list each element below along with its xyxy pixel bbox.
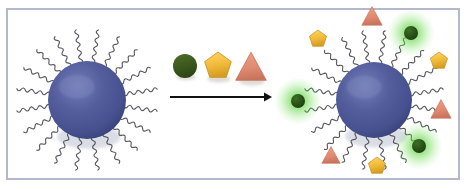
- polymer-chain: [17, 104, 51, 112]
- ligand-circle-lower-right-icon: [412, 139, 426, 153]
- polymer-chain: [120, 67, 150, 84]
- ligand-triangle-top-icon: [362, 7, 382, 26]
- ligand-pentagon-upper-left-icon: [309, 30, 326, 46]
- reaction-arrow-head: [264, 92, 272, 101]
- ligand-circle-upper-right-icon: [404, 26, 418, 40]
- ligand-pentagon-bottom-icon: [368, 157, 385, 173]
- ligand-pentagon-right-icon: [430, 52, 447, 68]
- polymer-chain: [124, 88, 158, 96]
- polymer-chain: [17, 88, 51, 95]
- nanoparticle-core: [48, 61, 126, 139]
- salmon-triangle-ligand: [236, 52, 267, 80]
- polymer-chain: [406, 68, 436, 85]
- polymer-chain: [104, 37, 120, 67]
- polymer-chain: [410, 88, 444, 96]
- polymer-chain: [342, 38, 359, 68]
- yellow-pentagon-ligand: [205, 52, 232, 77]
- polymer-chain: [379, 31, 386, 65]
- polymer-chain: [312, 68, 342, 84]
- polymer-chain: [24, 116, 54, 133]
- ligand-circle-left-icon: [291, 94, 305, 108]
- polymer-chain: [120, 117, 150, 133]
- figure-canvas: [0, 0, 468, 190]
- polymer-chain: [24, 68, 54, 84]
- polymer-chain: [92, 30, 99, 64]
- reaction-arrow-group: [170, 92, 272, 101]
- polymer-chain: [324, 50, 348, 74]
- reactant-nanoparticle-group: [17, 30, 157, 170]
- polymer-chain: [324, 125, 348, 149]
- ligand-legend-group: [173, 52, 266, 86]
- nanoparticle-core: [336, 62, 412, 138]
- polymer-chain: [362, 31, 370, 65]
- polymer-chain: [75, 30, 83, 64]
- polymer-chain: [37, 126, 61, 150]
- polymer-chain: [312, 116, 342, 133]
- nanoparticle-functionalization-figure: Polymer-coated nanoparticle functionaliz…: [0, 0, 468, 190]
- polymer-chain: [124, 105, 158, 112]
- polymer-chain: [54, 37, 71, 67]
- product-nanoparticle-group: [274, 7, 451, 174]
- nanoparticle-specular-highlight: [347, 76, 382, 99]
- green-circle-ligand: [173, 54, 197, 78]
- nanoparticle-specular-highlight: [59, 75, 95, 98]
- polymer-chain: [113, 50, 137, 74]
- polymer-chain: [37, 50, 61, 74]
